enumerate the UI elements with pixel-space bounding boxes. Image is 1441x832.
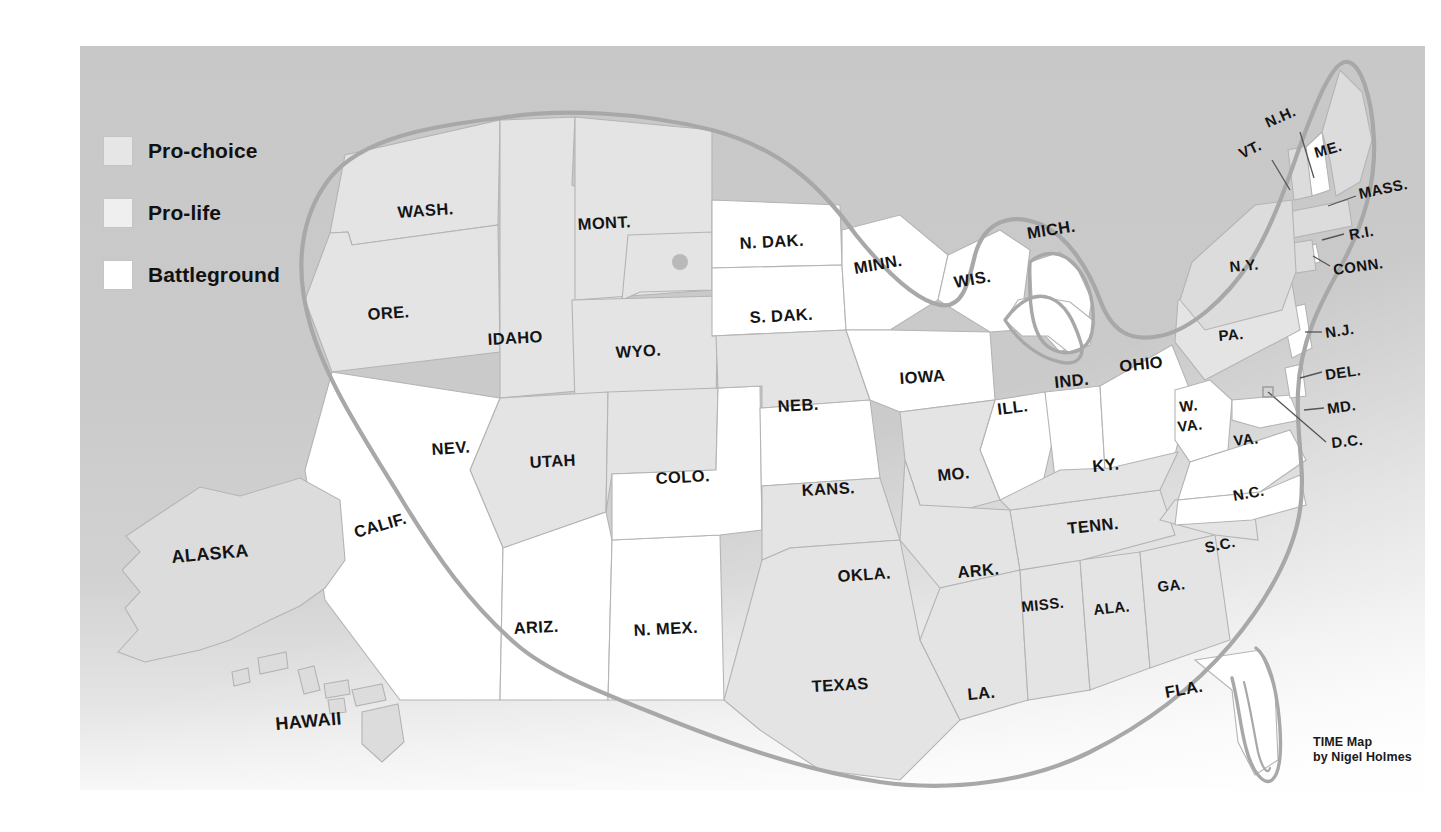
state-sdak (712, 265, 846, 336)
label-nh: N.H. (1262, 102, 1298, 130)
legend-swatch-pro-life (104, 199, 132, 227)
legend-label-pro-life: Pro-life (148, 201, 221, 225)
map-credit: TIME Map by Nigel Holmes (1313, 735, 1412, 765)
label-va: VA. (1233, 429, 1260, 449)
label-vt: VT. (1236, 136, 1264, 161)
label-neb: NEB. (777, 395, 819, 415)
label-wyo: WYO. (615, 341, 661, 361)
label-ny: N.Y. (1229, 256, 1259, 275)
state-nmex (608, 535, 724, 700)
label-wva-line1: W. (1179, 396, 1199, 415)
legend-swatch-battleground (104, 261, 132, 289)
legend-label-pro-choice: Pro-choice (148, 139, 258, 163)
state-ga (1140, 535, 1230, 668)
label-ndak: N. DAK. (739, 231, 804, 252)
legend-swatch-pro-choice (104, 137, 132, 165)
leader-md (1304, 408, 1324, 410)
label-pa: PA. (1218, 325, 1244, 344)
us-map: WASH. ORE. IDAHO MONT. WYO. NEV. UTAH CA… (0, 0, 1441, 832)
label-mont: MONT. (577, 212, 631, 233)
legend-label-battleground: Battleground (148, 263, 280, 287)
legend: Pro-choice Pro-life Battleground (104, 136, 280, 322)
map-canvas: WASH. ORE. IDAHO MONT. WYO. NEV. UTAH CA… (0, 0, 1441, 832)
label-wva-line2: VA. (1177, 415, 1204, 435)
state-mass (1288, 200, 1352, 238)
leader-vt (1272, 160, 1290, 190)
label-nmex: N. MEX. (633, 618, 698, 639)
state-ore (305, 225, 500, 372)
state-wash (330, 120, 500, 245)
label-texas: TEXAS (811, 674, 869, 695)
label-ore: ORE. (367, 302, 410, 323)
credit-line-1: TIME Map (1313, 735, 1412, 750)
legend-item-pro-life[interactable]: Pro-life (104, 198, 280, 228)
state-ala (1080, 552, 1150, 690)
label-ark: ARK. (957, 559, 1000, 581)
label-ariz: ARIZ. (513, 617, 559, 637)
label-mass: MASS. (1357, 175, 1409, 202)
state-miss (1020, 560, 1090, 700)
label-ill: ILL. (996, 396, 1029, 418)
label-ky: KY. (1091, 454, 1120, 475)
label-md: MD. (1326, 396, 1357, 417)
label-la: LA. (967, 683, 996, 703)
label-mo: MO. (937, 463, 971, 484)
label-kans: KANS. (801, 478, 855, 499)
credit-line-2: by Nigel Holmes (1313, 750, 1412, 765)
montana-dot (672, 254, 688, 270)
leader-ri (1322, 234, 1344, 240)
label-nj: N.J. (1324, 320, 1355, 341)
state-alaska (118, 478, 345, 662)
label-ind: IND. (1053, 369, 1089, 391)
label-nev: NEV. (431, 437, 471, 458)
label-okla: OKLA. (837, 563, 891, 585)
label-sdak: S. DAK. (749, 305, 813, 326)
label-utah: UTAH (529, 451, 576, 471)
label-del: DEL. (1324, 361, 1362, 383)
label-ri: R.I. (1348, 222, 1376, 243)
state-mont-fill2 (622, 232, 712, 300)
label-hawaii: HAWAII (275, 708, 343, 734)
legend-item-battleground[interactable]: Battleground (104, 260, 280, 290)
label-conn: CONN. (1332, 254, 1384, 278)
legend-item-pro-choice[interactable]: Pro-choice (104, 136, 280, 166)
label-idaho: IDAHO (487, 327, 543, 348)
label-ga: GA. (1157, 575, 1186, 595)
label-colo: COLO. (655, 466, 710, 487)
label-dc: D.C. (1331, 431, 1364, 451)
label-iowa: IOWA (899, 366, 946, 387)
state-del (1285, 364, 1306, 398)
label-fla: FLA. (1163, 677, 1204, 701)
